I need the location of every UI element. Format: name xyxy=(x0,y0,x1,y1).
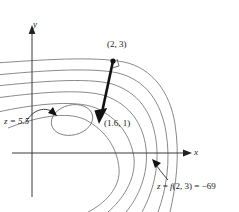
level-label-outer: z = f(2, 3) = −69 xyxy=(157,182,216,191)
point-label-gradient-tail: (2, 3) xyxy=(107,40,127,49)
gradient-vector-shaft xyxy=(101,61,113,117)
point-label-gradient-head: (1.6, 1) xyxy=(104,119,130,128)
contour-line-3 xyxy=(0,80,157,212)
contour-inner-ellipse xyxy=(48,100,96,139)
level-label-outer-eq2: = xyxy=(192,181,202,191)
contour-curves xyxy=(0,59,177,212)
level-label-outer-value: −69 xyxy=(202,181,216,191)
y-axis-label: y xyxy=(33,20,37,29)
level-label-outer-args: (2, 3) xyxy=(173,181,193,191)
contour-line-1 xyxy=(0,59,177,212)
level-label-inner-var: z = 5.5 xyxy=(4,116,29,126)
x-axis-arrowhead xyxy=(183,150,192,157)
contour-plot-figure: y x (2, 3) (1.6, 1) z = 5.5 z = f(2, 3) … xyxy=(0,0,239,212)
contour-line-4 xyxy=(0,92,146,212)
gradient-tail-point xyxy=(110,58,115,63)
level-label-outer-eq1: = xyxy=(161,181,171,191)
level-label-inner: z = 5.5 xyxy=(4,117,29,126)
x-axis-label: x xyxy=(194,148,198,157)
z55-leader-arrowhead xyxy=(48,107,57,116)
contour-line-2 xyxy=(0,70,168,212)
contour-line-6 xyxy=(8,115,119,212)
annotation-arrows xyxy=(26,109,168,180)
